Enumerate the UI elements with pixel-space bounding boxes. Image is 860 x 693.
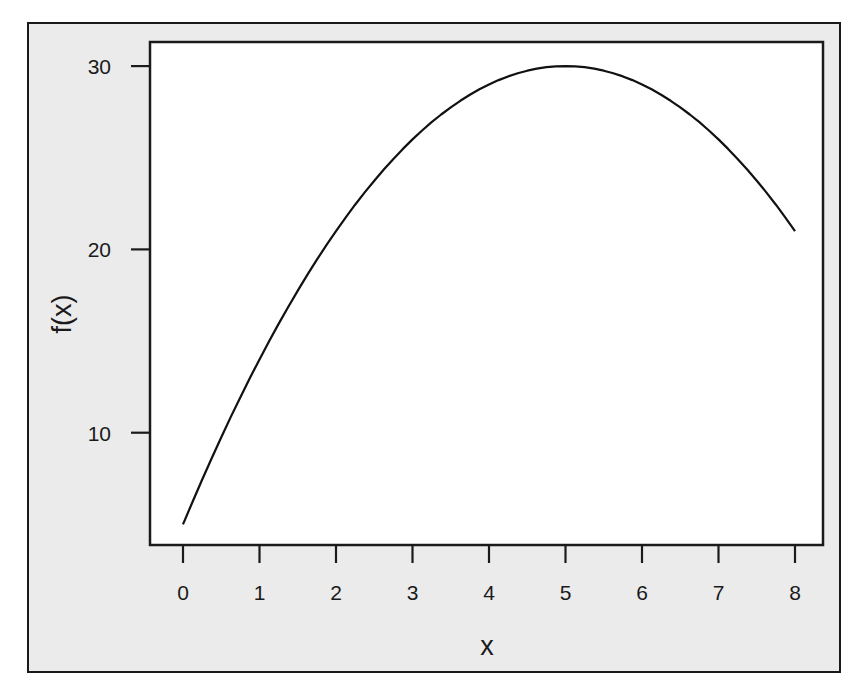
x-tick-label: 6 — [636, 581, 648, 604]
x-tick-label: 2 — [330, 581, 342, 604]
plot-area — [150, 42, 823, 545]
x-tick-label: 5 — [560, 581, 572, 604]
x-axis-ticks: 012345678 — [177, 545, 801, 604]
chart: 012345678 102030 x f(x) — [0, 0, 860, 693]
x-tick-label: 8 — [789, 581, 801, 604]
y-tick-label: 20 — [88, 238, 111, 261]
x-tick-label: 3 — [407, 581, 419, 604]
x-tick-label: 0 — [177, 581, 189, 604]
y-axis-label: f(x) — [47, 295, 77, 334]
y-axis-ticks: 102030 — [88, 55, 150, 445]
x-axis-label: x — [480, 631, 494, 661]
y-tick-label: 10 — [88, 422, 111, 445]
x-tick-label: 1 — [254, 581, 266, 604]
y-tick-label: 30 — [88, 55, 111, 78]
x-tick-label: 7 — [713, 581, 725, 604]
x-tick-label: 4 — [483, 581, 495, 604]
